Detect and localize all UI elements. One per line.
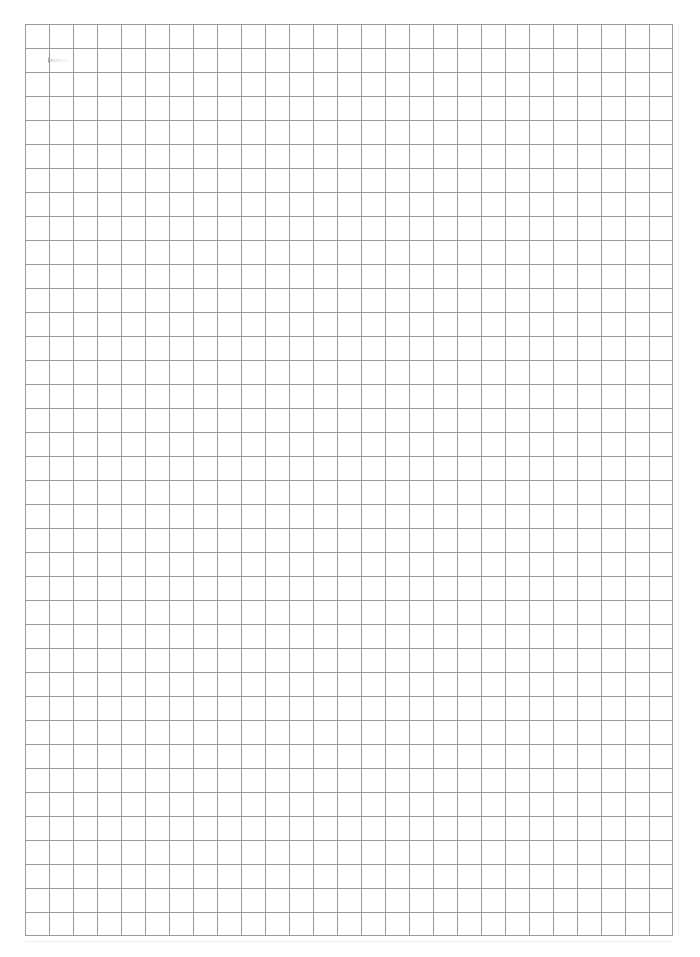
grid-bottom-rule (25, 935, 673, 936)
grid-ghost-right-rule (678, 24, 679, 936)
square-grid (25, 24, 673, 936)
grid-ghost-bottom-rule (25, 941, 673, 942)
page-canvas (0, 0, 700, 957)
grid-right-rule (672, 24, 673, 936)
faint-pencil-streak (48, 59, 73, 62)
